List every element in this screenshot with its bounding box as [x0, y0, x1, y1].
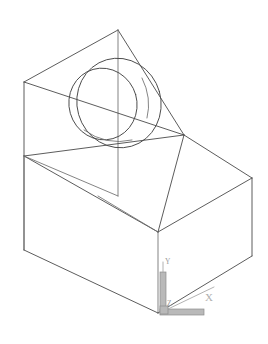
cad-model-viewport[interactable]: Y X Z — [0, 0, 268, 344]
edge-front-bottom-to-right-top — [158, 178, 252, 232]
ucs-label-x: X — [205, 291, 213, 303]
edge-left-mid-to-slope-right — [24, 135, 184, 156]
ucs-coordinate-icon[interactable]: Y X Z — [160, 257, 214, 315]
edge-slope-right-to-right-top — [184, 135, 252, 178]
edge-apex-to-slope-right — [118, 30, 184, 135]
edge-slope-inner-left — [24, 156, 118, 196]
cad-wireframe-canvas[interactable]: Y X Z — [0, 0, 268, 344]
edge-slope-front-left — [24, 82, 184, 135]
edge-front-mid-diagonal — [98, 196, 158, 232]
edge-left-top-to-apex — [24, 30, 118, 82]
edge-bottom-left-to-front-low — [24, 250, 158, 313]
cylinder-intersection-curve-right — [142, 78, 149, 118]
ucs-label-z: Z — [167, 299, 172, 308]
edge-front-low-to-bottom-right — [158, 256, 252, 313]
cylinder-silhouette-small-icon — [60, 60, 145, 148]
edge-slope-right-to-front-bottom — [158, 135, 184, 232]
edge-left-mid-to-front-mid — [24, 156, 158, 232]
ucs-label-y: Y — [165, 257, 171, 266]
solid-wireframe-group — [24, 30, 252, 313]
cylinder-silhouettes-group — [60, 48, 171, 158]
